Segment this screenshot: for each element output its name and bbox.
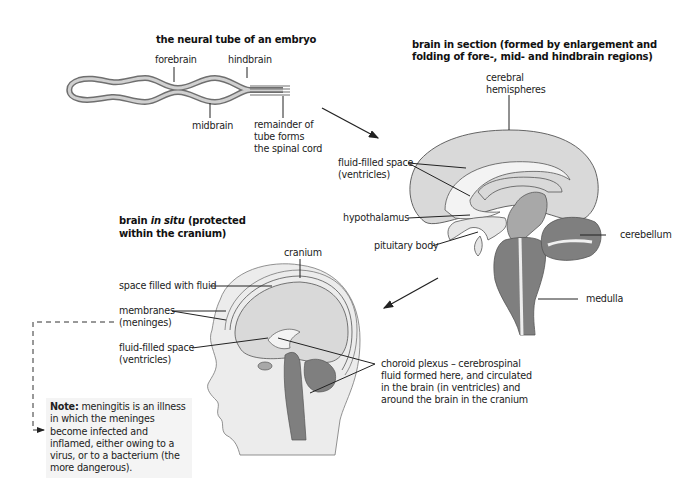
label-section-ventricles-1: fluid-filled space [338,157,413,169]
label-remainder-1: remainder of [254,119,313,131]
label-remainder-3: the spinal cord [254,143,322,155]
brain-section-illustration [410,130,601,335]
brain-in-situ-title-line2: within the cranium) [119,228,226,241]
label-hindbrain: hindbrain [228,54,272,66]
label-hemispheres: hemispheres [486,84,546,96]
label-membranes: membranes [119,305,175,317]
label-choroid-1: choroid plexus – cerebrospinal [381,358,521,370]
label-choroid-2: fluid formed here, and circulated [381,370,532,382]
arrow-to-in-situ [384,278,438,308]
label-space-filled-fluid: space filled with fluid [119,280,216,292]
brain-in-situ-title: brain in situ (protected [119,215,246,228]
label-in-situ-ventricles-1: fluid-filled space [119,342,194,354]
label-cerebellum: cerebellum [620,229,672,241]
label-cerebral: cerebral [486,72,524,84]
neural-tube-illustration [69,67,290,118]
label-pituitary: pituitary body [374,240,439,252]
label-section-ventricles-2: (ventricles) [338,169,390,181]
brain-section-title-line2: folding of fore-, mid- and hindbrain reg… [412,51,653,64]
label-hypothalamus: hypothalamus [343,212,409,224]
label-remainder-2: tube forms [254,131,304,143]
label-meninges: (meninges) [119,317,172,329]
meningitis-note: Note: meningitis is an illness in which … [46,398,192,478]
label-choroid-4: around the brain in the cranium [381,394,528,406]
label-cranium: cranium [284,247,322,259]
label-medulla: medulla [586,293,623,305]
brain-section-title-line1: brain in section (formed by enlargement … [412,39,657,52]
label-choroid-3: in the brain (in ventricles) and [381,382,520,394]
label-forebrain: forebrain [155,54,197,66]
label-in-situ-ventricles-2: (ventricles) [119,354,171,366]
head-illustration [208,264,360,455]
arrow-to-section [322,108,378,138]
neural-tube-title: the neural tube of an embryo [156,34,316,47]
label-midbrain: midbrain [192,120,233,132]
